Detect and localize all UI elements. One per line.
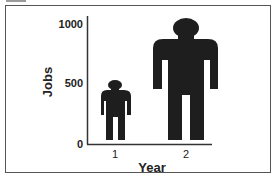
y-tick-500: 500	[65, 77, 83, 89]
x-axis-label: Year	[138, 160, 165, 175]
y-tick-0: 0	[77, 138, 83, 150]
person-figure-year-1	[101, 80, 131, 140]
pictogram-chart: 1000 500 0 Jobs 1 2 Year	[0, 0, 275, 182]
y-tick-1000: 1000	[59, 18, 83, 30]
person-figure-year-2	[153, 18, 218, 140]
x-tick-2: 2	[183, 148, 189, 160]
x-tick-1: 1	[112, 148, 118, 160]
y-axis-label: Jobs	[40, 67, 55, 97]
